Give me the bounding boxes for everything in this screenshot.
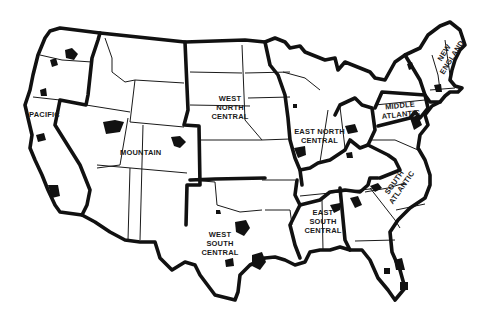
wsc-line-1: WEST	[200, 230, 240, 239]
label-pacific: PACIFIC	[29, 110, 60, 119]
label-east-north-central: EAST NORTH CENTRAL	[292, 127, 347, 145]
wnc-line-3: CENTRAL	[205, 112, 255, 121]
label-west-north-central: WEST NORTH CENTRAL	[205, 94, 255, 121]
division-boundaries	[25, 22, 465, 300]
label-east-south-central: EAST SOUTH CENTRAL	[303, 208, 343, 235]
us-census-divisions-map	[0, 0, 493, 329]
esc-line-1: EAST	[303, 208, 343, 217]
label-mountain: MOUNTAIN	[120, 148, 161, 157]
label-west-south-central: WEST SOUTH CENTRAL	[200, 230, 240, 257]
wnc-line-2: NORTH	[205, 103, 255, 112]
esc-line-2: SOUTH	[303, 217, 343, 226]
wnc-line-1: WEST	[205, 94, 255, 103]
wsc-line-2: SOUTH	[200, 239, 240, 248]
wsc-line-3: CENTRAL	[200, 248, 240, 257]
enc-line-2: CENTRAL	[292, 136, 347, 145]
enc-line-1: EAST NORTH	[292, 127, 347, 136]
esc-line-3: CENTRAL	[303, 226, 343, 235]
